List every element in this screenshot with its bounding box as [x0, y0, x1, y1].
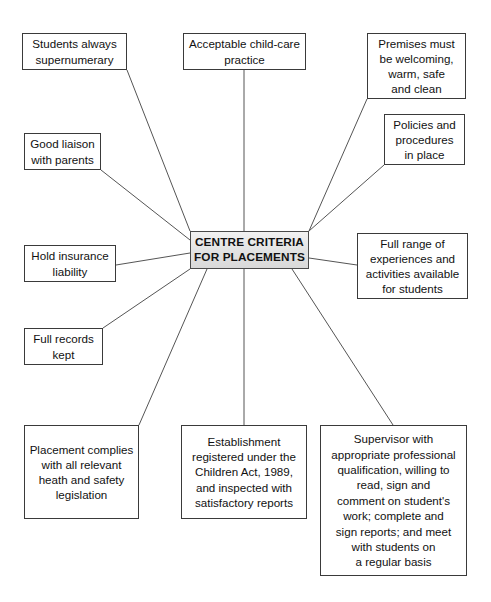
node-label-hold-insurance-liability: Hold insurance liability: [25, 248, 115, 278]
node-policies-procedures[interactable]: Policies and procedures in place: [384, 114, 465, 165]
center-node-centre-criteria[interactable]: CENTRE CRITERIA FOR PLACEMENTS: [190, 231, 309, 269]
connector-line-premises-welcoming: [309, 99, 367, 231]
connector-line-good-liaison-parents: [101, 170, 190, 240]
node-acceptable-childcare-practice[interactable]: Acceptable child-care practice: [183, 33, 306, 70]
node-full-range-experiences[interactable]: Full range of experiences and activities…: [357, 233, 468, 299]
node-premises-welcoming[interactable]: Premises must be welcoming, warm, safe a…: [367, 33, 466, 99]
node-label-students-supernumerary: Students always supernumerary: [23, 36, 126, 66]
node-supervisor-qualification[interactable]: Supervisor with appropriate professional…: [320, 425, 467, 576]
node-label-good-liaison-parents: Good liaison with parents: [25, 136, 100, 166]
node-label-policies-procedures: Policies and procedures in place: [385, 117, 464, 163]
node-label-full-records-kept: Full records kept: [25, 331, 102, 361]
connector-line-policies-procedures: [309, 165, 384, 231]
node-establishment-registered[interactable]: Establishment registered under the Child…: [181, 425, 307, 519]
connector-line-full-range-experiences: [309, 258, 357, 265]
connector-line-hold-insurance-liability: [116, 253, 190, 265]
diagram-canvas: CENTRE CRITERIA FOR PLACEMENTS Students …: [0, 0, 491, 602]
connector-line-full-records-kept: [103, 269, 190, 328]
node-good-liaison-parents[interactable]: Good liaison with parents: [24, 133, 101, 170]
connector-line-placement-health-safety: [139, 269, 207, 425]
node-students-supernumerary[interactable]: Students always supernumerary: [22, 33, 127, 70]
node-label-acceptable-childcare-practice: Acceptable child-care practice: [184, 36, 305, 66]
center-node-label: CENTRE CRITERIA FOR PLACEMENTS: [191, 235, 308, 266]
node-label-supervisor-qualification: Supervisor with appropriate professional…: [321, 431, 466, 570]
node-label-premises-welcoming: Premises must be welcoming, warm, safe a…: [368, 36, 465, 97]
node-hold-insurance-liability[interactable]: Hold insurance liability: [24, 245, 116, 282]
node-label-establishment-registered: Establishment registered under the Child…: [182, 434, 306, 510]
connector-line-students-supernumerary: [127, 70, 190, 231]
node-label-full-range-experiences: Full range of experiences and activities…: [358, 236, 467, 297]
node-placement-health-safety[interactable]: Placement complies with all relevant hea…: [24, 425, 139, 519]
node-full-records-kept[interactable]: Full records kept: [24, 328, 103, 365]
node-label-placement-health-safety: Placement complies with all relevant hea…: [25, 442, 138, 503]
